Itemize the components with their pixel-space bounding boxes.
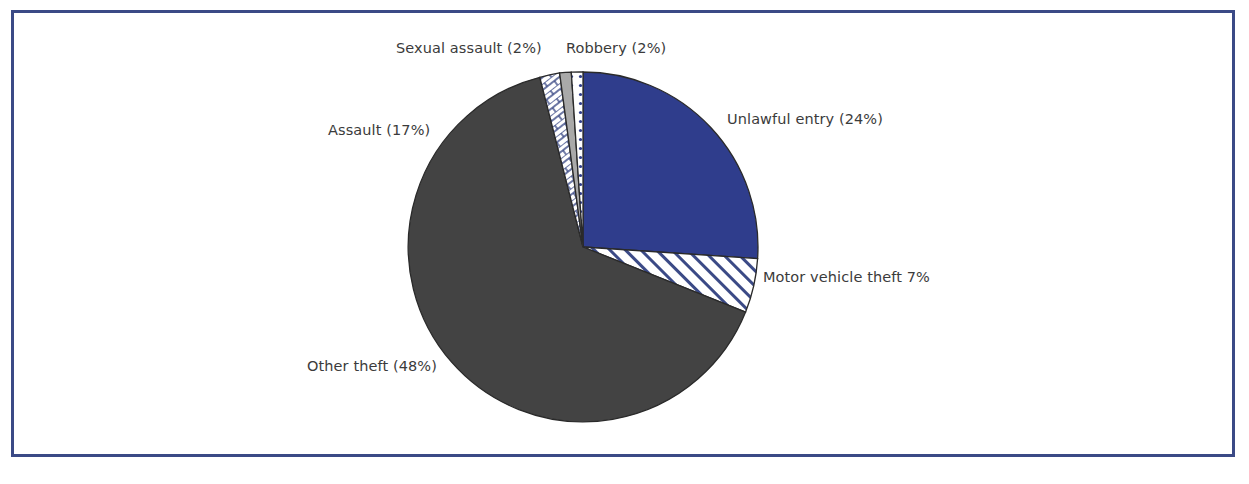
pie-label-robbery: Robbery (2%) [566,41,666,57]
pie-label-motor-vehicle-theft: Motor vehicle theft 7% [763,270,930,286]
pie-label-sexual-assault: Sexual assault (2%) [396,41,542,57]
pie-chart-svg [0,0,1249,484]
pie-chart-figure: Sexual assault (2%) Robbery (2%) Unlawfu… [0,0,1249,484]
pie-slice-unlawful-entry[interactable] [583,72,758,259]
pie-label-unlawful-entry: Unlawful entry (24%) [727,112,883,128]
pie-label-assault: Assault (17%) [328,123,430,139]
pie-slices [408,72,758,422]
page-root: Sexual assault (2%) Robbery (2%) Unlawfu… [0,0,1249,484]
pie-label-other-theft: Other theft (48%) [307,359,437,375]
